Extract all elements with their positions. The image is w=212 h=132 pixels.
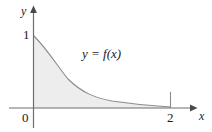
y-axis-arrowhead xyxy=(30,6,37,14)
x-axis-arrowhead xyxy=(190,105,198,112)
origin-label: 0 xyxy=(22,111,29,124)
curve-equation-label: y = f(x) xyxy=(82,47,121,60)
y-tick-label-1: 1 xyxy=(23,28,30,41)
x-axis-label: x xyxy=(199,110,204,122)
x-tick-label-2: 2 xyxy=(167,111,174,124)
area-under-curve-figure: y x 1 0 2 y = f(x) xyxy=(0,0,212,132)
y-axis-label: y xyxy=(21,5,26,17)
figure-canvas xyxy=(0,0,212,132)
